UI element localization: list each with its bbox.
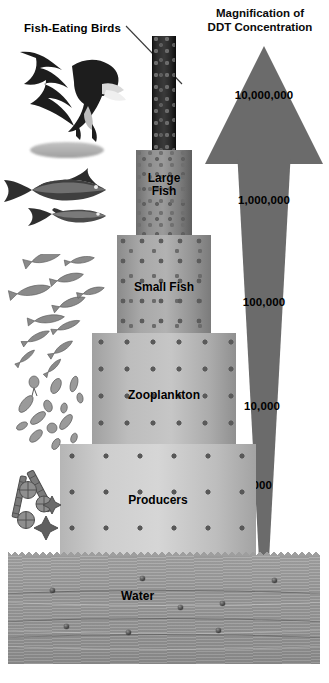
fish-eating-bird-illustration xyxy=(6,36,134,146)
level-bar-producers: Producers xyxy=(60,444,256,556)
biomagnification-diagram: Magnification of DDT Concentration 10,00… xyxy=(0,0,329,683)
ddt-dots xyxy=(153,36,175,150)
arrow-title-line1: Magnification of xyxy=(196,6,324,20)
large-fish-illustration xyxy=(2,166,114,232)
zooplankton-illustration xyxy=(8,372,94,454)
level-label-large-fish: Large Fish xyxy=(136,172,192,199)
water-body xyxy=(8,556,320,664)
arrow-head-icon xyxy=(205,46,323,164)
level-label-small-fish: Small Fish xyxy=(117,281,211,294)
bird-shadow xyxy=(30,142,104,158)
level-bar-zooplankton: Zooplankton xyxy=(92,333,236,444)
magnification-value-small-fish: 100,000 xyxy=(243,296,285,309)
magnification-value-large-fish: 1,000,000 xyxy=(238,194,290,207)
small-fish-school-illustration xyxy=(0,254,110,390)
producers-phytoplankton-illustration xyxy=(6,464,80,546)
callout-label-fish-eating-birds: Fish-Eating Birds xyxy=(24,22,121,35)
level-bar-small-fish: Small Fish xyxy=(117,235,211,333)
arrow-title: Magnification of DDT Concentration xyxy=(196,6,324,34)
magnification-value-birds: 10,000,000 xyxy=(235,89,294,102)
arrow-title-line2: DDT Concentration xyxy=(196,20,324,34)
level-bar-fish-eating-birds xyxy=(152,36,176,150)
level-bar-large-fish: Large Fish xyxy=(136,150,192,235)
level-label-water: Water xyxy=(121,590,154,604)
magnification-value-zooplankton: 10,000 xyxy=(244,400,280,413)
level-label-zooplankton: Zooplankton xyxy=(92,389,236,402)
level-label-producers: Producers xyxy=(60,494,256,507)
